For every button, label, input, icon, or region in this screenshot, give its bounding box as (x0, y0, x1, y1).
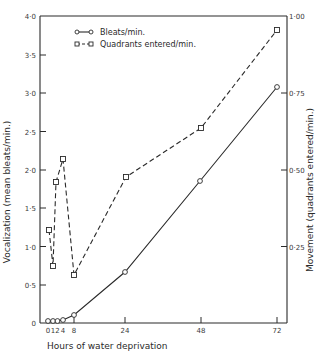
quadrant-point-72h (275, 28, 280, 33)
bleat-point-72h (275, 85, 280, 90)
y-tick-1-5: 1·5 (25, 205, 36, 213)
right-y-tick-labels: 0·25 0·50 0·75 1·00 (289, 13, 305, 252)
legend-circle-marker-icon (75, 30, 79, 34)
x-tick-48: 48 (197, 327, 206, 335)
bleat-point-4h (61, 318, 66, 323)
right-y-ticks (281, 93, 287, 247)
x-tick-72: 72 (273, 327, 282, 335)
bleat-point-0h (46, 319, 51, 324)
plot-frame (40, 16, 287, 323)
x-tick-4: 4 (61, 327, 66, 335)
y2-tick-0-50: 0·50 (289, 167, 305, 175)
left-y-tick-labels: 0 0·5 1·0 1·5 2·0 2·5 3·0 3·5 4·0 (25, 13, 36, 328)
quadrants-line (49, 30, 277, 275)
x-tick-labels: 0 1 2 4 8 24 48 72 (46, 327, 282, 335)
y-tick-4-0: 4·0 (25, 13, 36, 21)
x-tick-2: 2 (55, 327, 59, 335)
y-tick-0: 0 (32, 320, 36, 328)
series-bleats (46, 85, 280, 324)
x-axis-title: Hours of water deprivation (47, 341, 168, 351)
legend-item-bleats: Bleats/min. (75, 28, 145, 37)
quadrant-point-1h (51, 264, 56, 269)
legend: Bleats/min. Quadrants entered/min. (75, 28, 196, 49)
chart: 0 0·5 1·0 1·5 2·0 2·5 3·0 3·5 4·0 0·25 0… (0, 0, 325, 363)
bleats-markers (46, 85, 280, 324)
left-y-ticks (40, 55, 46, 285)
legend-square-marker-icon (89, 42, 93, 46)
y-tick-0-5: 0·5 (25, 282, 36, 290)
bleat-point-24h (123, 270, 128, 275)
bleat-point-2h (55, 319, 60, 324)
series-quadrants (47, 28, 280, 278)
quadrant-point-48h (199, 126, 204, 131)
legend-item-quadrants: Quadrants entered/min. (75, 40, 196, 49)
y-tick-3-0: 3·0 (25, 90, 36, 98)
legend-square-marker-icon (75, 42, 79, 46)
y2-axis-title: Movement (quadrants entered/min.) (305, 108, 315, 272)
x-tick-0: 0 (46, 327, 50, 335)
quadrant-point-2h (54, 180, 59, 185)
y-tick-2-5: 2·5 (25, 129, 36, 137)
legend-label-bleats: Bleats/min. (100, 28, 145, 37)
y-axis-title: Vocalization (mean bleats/min.) (2, 121, 12, 264)
bleat-point-48h (198, 179, 203, 184)
x-tick-8: 8 (72, 327, 76, 335)
quadrant-point-0h (47, 228, 52, 233)
y2-tick-1-00: 1·00 (289, 13, 305, 21)
bleats-line (48, 87, 277, 321)
x-tick-24: 24 (121, 327, 130, 335)
y-tick-1-0: 1·0 (25, 244, 36, 252)
quadrant-point-24h (124, 175, 129, 180)
y2-tick-0-75: 0·75 (289, 90, 305, 98)
y-tick-2-0: 2·0 (25, 167, 36, 175)
quadrant-point-4h (61, 157, 66, 162)
y-tick-3-5: 3·5 (25, 52, 36, 60)
y2-tick-0-25: 0·25 (289, 244, 305, 252)
bleat-point-8h (72, 313, 77, 318)
legend-circle-marker-icon (89, 30, 93, 34)
legend-label-quadrants: Quadrants entered/min. (100, 40, 196, 49)
x-ticks (74, 317, 277, 323)
quadrant-point-8h (72, 273, 77, 278)
